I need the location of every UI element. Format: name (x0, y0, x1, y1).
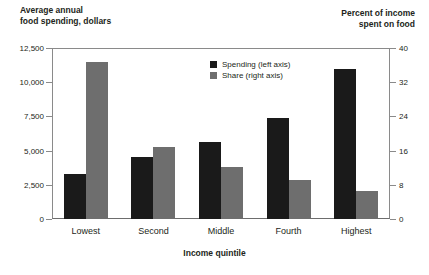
bar-spending-second (131, 157, 153, 219)
left-axis-tick-label: 10,000 (4, 78, 44, 87)
right-axis-tick-label: 24 (399, 112, 429, 121)
left-axis-tick-mark (46, 116, 52, 117)
left-axis-tick-mark (46, 151, 52, 152)
right-axis-tick-mark (390, 151, 396, 152)
right-axis-tick-label: 0 (399, 215, 429, 224)
x-tick-label-second: Second (138, 226, 169, 236)
bar-share-lowest (86, 62, 108, 219)
bar-spending-middle (199, 142, 221, 219)
left-axis-tick-mark (46, 82, 52, 83)
legend-item: Spending (left axis) (210, 60, 290, 69)
chart-figure: Average annual food spending, dollars Pe… (0, 0, 429, 275)
right-axis-title: Percent of income spent on food (341, 8, 415, 30)
bar-share-fourth (289, 180, 311, 219)
x-tick-label-middle: Middle (208, 226, 235, 236)
right-axis-tick-label: 16 (399, 146, 429, 155)
x-tick-label-fourth: Fourth (276, 226, 302, 236)
right-axis-tick-mark (390, 185, 396, 186)
right-axis-tick-mark (390, 219, 396, 220)
left-axis-title: Average annual food spending, dollars (20, 5, 111, 27)
x-tick-label-highest: Highest (341, 226, 372, 236)
left-axis-tick-mark (46, 48, 52, 49)
right-axis-tick-label: 40 (399, 44, 429, 53)
left-axis-tick-mark (46, 219, 52, 220)
right-axis-tick-label: 8 (399, 180, 429, 189)
left-axis-tick-mark (46, 185, 52, 186)
left-axis-tick-label: 5,000 (4, 146, 44, 155)
left-axis-tick-label: 12,500 (4, 44, 44, 53)
legend-item: Share (right axis) (210, 71, 290, 80)
left-axis-tick-label: 2,500 (4, 180, 44, 189)
legend-label: Share (right axis) (222, 71, 283, 80)
bar-spending-fourth (267, 118, 289, 219)
bar-spending-lowest (64, 174, 86, 219)
chart-legend: Spending (left axis)Share (right axis) (210, 60, 290, 82)
right-axis-tick-mark (390, 48, 396, 49)
left-axis-tick-label: 0 (4, 215, 44, 224)
bar-share-second (153, 147, 175, 219)
legend-swatch-icon (210, 61, 217, 68)
left-axis-tick-label: 7,500 (4, 112, 44, 121)
legend-swatch-icon (210, 72, 217, 79)
bar-share-middle (221, 167, 243, 219)
right-axis-tick-mark (390, 82, 396, 83)
bar-spending-highest (334, 69, 356, 219)
bar-share-highest (356, 191, 378, 219)
right-axis-tick-mark (390, 116, 396, 117)
x-axis-title: Income quintile (0, 248, 429, 258)
right-axis-tick-label: 32 (399, 78, 429, 87)
x-tick-label-lowest: Lowest (72, 226, 101, 236)
legend-label: Spending (left axis) (222, 60, 290, 69)
